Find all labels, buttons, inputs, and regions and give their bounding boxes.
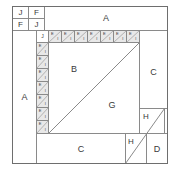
half-square-label-upper: E xyxy=(116,31,119,36)
patch-corner-small-top: H xyxy=(140,109,165,134)
half-square-label-lower: I xyxy=(45,114,46,119)
half-square-label-upper: E xyxy=(39,95,42,100)
half-square-label-lower: I xyxy=(45,75,46,80)
four-patch-corner: J F F J xyxy=(13,7,45,31)
patchwork-diagram: J F F J A A J E I xyxy=(0,0,172,170)
four-patch-label-1-1: J xyxy=(35,20,39,29)
half-square-label-upper: E xyxy=(129,31,132,36)
patch-bottom-bar-label: C xyxy=(78,144,85,154)
half-square-label-lower: I xyxy=(45,62,46,67)
half-square-label-lower: I xyxy=(45,101,46,106)
half-square-unit: E I xyxy=(101,31,114,43)
half-square-unit: E I xyxy=(37,95,49,108)
half-square-unit: E I xyxy=(127,31,140,43)
top-half-square-strip: E I E I E I xyxy=(49,31,140,43)
half-square-unit: E I xyxy=(114,31,127,43)
half-square-label-upper: E xyxy=(39,108,42,113)
patch-inner-upper-left-label: B xyxy=(71,64,77,74)
half-square-label-upper: E xyxy=(39,69,42,74)
left-half-square-strip: E I E I E I xyxy=(37,43,49,134)
half-square-unit: E I xyxy=(37,69,49,82)
patch-right-bar-label: C xyxy=(150,67,157,77)
half-square-label-lower: I xyxy=(96,36,97,41)
four-patch-label-0-0: J xyxy=(19,8,23,17)
half-square-label-upper: E xyxy=(90,31,93,36)
half-square-label-upper: E xyxy=(51,31,54,36)
half-square-label-lower: I xyxy=(45,88,46,93)
patch-corner-square: D xyxy=(147,134,168,164)
patch-left-bar-label: A xyxy=(21,92,27,102)
patch-corner-small-bottom-label: H xyxy=(128,137,134,146)
half-square-unit: E I xyxy=(37,108,49,121)
diagram-canvas: J F F J A A J E I xyxy=(0,0,172,170)
center-square: B G xyxy=(49,43,140,134)
half-square-label-upper: E xyxy=(77,31,80,36)
half-square-label-upper: E xyxy=(64,31,67,36)
patch-left-bar: A xyxy=(13,31,37,164)
half-square-unit: E I xyxy=(37,43,49,56)
four-patch-label-0-1: F xyxy=(34,8,39,17)
half-square-label-lower: I xyxy=(45,49,46,54)
half-square-unit: E I xyxy=(62,31,75,43)
half-square-label-lower: I xyxy=(45,127,46,132)
half-square-label-upper: E xyxy=(39,56,42,61)
half-square-unit: E I xyxy=(37,121,49,134)
patch-corner-square-label: D xyxy=(154,144,161,154)
half-square-label-upper: E xyxy=(103,31,106,36)
half-square-unit: E I xyxy=(37,56,49,69)
half-square-unit: E I xyxy=(88,31,101,43)
patch-top-bar: A xyxy=(45,7,168,31)
patch-bottom-bar: C xyxy=(37,134,126,164)
half-square-label-lower: I xyxy=(109,36,110,41)
half-square-unit: E I xyxy=(37,82,49,95)
half-square-label-lower: I xyxy=(135,36,136,41)
half-square-label-lower: I xyxy=(70,36,71,41)
half-square-label-upper: E xyxy=(39,121,42,126)
patch-corner-small-top-label: H xyxy=(143,112,149,121)
half-square-unit: E I xyxy=(75,31,88,43)
patch-top-bar-label: A xyxy=(103,13,109,23)
patch-strip-corner: J xyxy=(37,31,49,43)
four-patch-label-1-0: F xyxy=(18,20,23,29)
half-square-label-lower: I xyxy=(122,36,123,41)
half-square-label-lower: I xyxy=(57,36,58,41)
half-square-label-lower: I xyxy=(83,36,84,41)
half-square-label-upper: E xyxy=(39,82,42,87)
half-square-label-upper: E xyxy=(39,43,42,48)
patch-right-bar: C xyxy=(140,31,168,109)
patch-inner-lower-right-label: G xyxy=(108,100,115,110)
half-square-unit: E I xyxy=(49,31,62,43)
